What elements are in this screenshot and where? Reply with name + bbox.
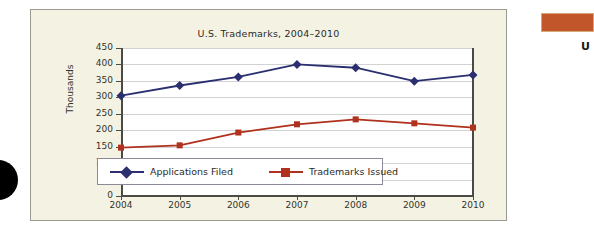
data-point-marker <box>234 72 243 81</box>
chart-figure-panel: U.S. Trademarks, 2004–2010 4504003503002… <box>30 9 507 221</box>
data-point-marker <box>292 60 301 69</box>
legend-entry-applications-filed: Applications Filed <box>110 159 233 184</box>
screenshot-stage: U.S. Trademarks, 2004–2010 4504003503002… <box>0 0 594 231</box>
data-point-marker <box>411 120 417 126</box>
legend-swatch-diamond-icon <box>110 167 144 177</box>
decorative-corner-dot <box>0 160 18 200</box>
data-point-marker <box>175 81 184 90</box>
decorative-orange-bar <box>541 13 594 32</box>
data-point-marker <box>351 63 360 72</box>
data-point-marker <box>294 121 300 127</box>
legend-label-trademarks-issued: Trademarks Issued <box>309 166 398 177</box>
chart-legend: Applications Filed Trademarks Issued <box>97 158 383 185</box>
data-point-marker <box>118 145 124 151</box>
data-point-marker <box>116 91 125 100</box>
legend-label-applications-filed: Applications Filed <box>150 166 233 177</box>
data-point-marker <box>353 116 359 122</box>
data-point-marker <box>468 70 477 79</box>
data-point-marker <box>470 125 476 131</box>
series-plot <box>31 10 508 222</box>
decorative-letter: U <box>581 40 590 53</box>
legend-entry-trademarks-issued: Trademarks Issued <box>269 159 398 184</box>
legend-swatch-square-icon <box>269 167 303 177</box>
data-point-marker <box>177 142 183 148</box>
series-line-0 <box>121 64 473 95</box>
data-point-marker <box>410 77 419 86</box>
data-point-marker <box>235 130 241 136</box>
